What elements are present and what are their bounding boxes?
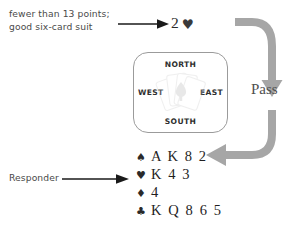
spade-suit-icon: ♠ bbox=[136, 151, 151, 164]
bridge-table-box: NORTH WEST EAST SOUTH bbox=[133, 52, 228, 133]
club-suit-icon: ♣ bbox=[136, 205, 151, 218]
responder-hand: ♠ A K 8 2 ♥ K 4 3 ♦ 4 ♣ K Q 8 6 5 bbox=[136, 148, 223, 220]
responder-arrow-icon bbox=[62, 172, 130, 186]
pass-label: Pass bbox=[251, 81, 278, 98]
opener-note-line-1: fewer than 13 points; bbox=[9, 7, 134, 20]
hand-cards-spades: A K 8 2 bbox=[151, 148, 208, 165]
responder-label: Responder bbox=[9, 172, 59, 183]
diamond-suit-icon: ♦ bbox=[136, 187, 151, 200]
hand-row: ♠ A K 8 2 bbox=[136, 148, 223, 166]
hand-cards-clubs: K Q 8 6 5 bbox=[151, 202, 223, 219]
hand-row: ♦ 4 bbox=[136, 184, 223, 202]
hand-cards-hearts: K 4 3 bbox=[151, 166, 191, 183]
opener-note: fewer than 13 points; good six-card suit bbox=[9, 7, 134, 33]
bridge-bidding-diagram: fewer than 13 points; good six-card suit… bbox=[0, 0, 293, 228]
hand-row: ♣ K Q 8 6 5 bbox=[136, 202, 223, 220]
opener-bid-level: 2 bbox=[171, 14, 179, 31]
opener-note-line-2: good six-card suit bbox=[9, 20, 134, 33]
heart-suit-icon: ♥ bbox=[136, 169, 151, 182]
opener-arrow-icon bbox=[118, 17, 170, 31]
hand-row: ♥ K 4 3 bbox=[136, 166, 223, 184]
hand-cards-diamonds: 4 bbox=[151, 184, 160, 201]
playing-cards-fan-icon bbox=[155, 68, 207, 120]
